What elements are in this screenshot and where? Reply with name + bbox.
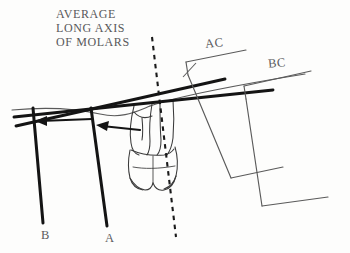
molar-outline (129, 100, 178, 190)
caption-line-3: OF MOLARS (56, 35, 130, 49)
thick-line-lower-to-bc (14, 90, 273, 117)
label-ac: AC (204, 35, 224, 51)
vertical-reference-line-b (33, 108, 43, 223)
diagram-drawing (0, 0, 350, 253)
average-long-axis-dashed-line (152, 37, 176, 237)
molar-long-axis-diagram: AVERAGE LONG AXIS OF MOLARS AC BC B A (0, 0, 350, 253)
thick-line-upper-to-ac (16, 79, 225, 126)
label-bc: BC (267, 55, 286, 71)
arrow-to-a (96, 121, 140, 131)
caption-line-1: AVERAGE (56, 7, 130, 21)
caption-line-2: LONG AXIS (56, 21, 130, 35)
arrow-to-b (35, 116, 92, 126)
label-a: A (105, 231, 115, 245)
label-b: B (41, 228, 50, 242)
average-long-axis-caption: AVERAGE LONG AXIS OF MOLARS (56, 7, 130, 49)
